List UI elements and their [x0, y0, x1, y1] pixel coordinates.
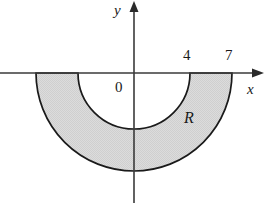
- x-axis-arrowhead: [252, 69, 264, 78]
- y-axis-arrowhead: [130, 1, 139, 12]
- origin-label: 0: [115, 80, 123, 95]
- x-axis-label: x: [247, 82, 254, 97]
- figure-svg: [0, 0, 271, 203]
- tick-label-4: 4: [183, 48, 191, 63]
- tick-label-7: 7: [225, 48, 233, 63]
- y-axis-label: y: [114, 3, 121, 18]
- figure-canvas: y x 0 4 7 R: [0, 0, 271, 203]
- region-label-r: R: [184, 110, 194, 126]
